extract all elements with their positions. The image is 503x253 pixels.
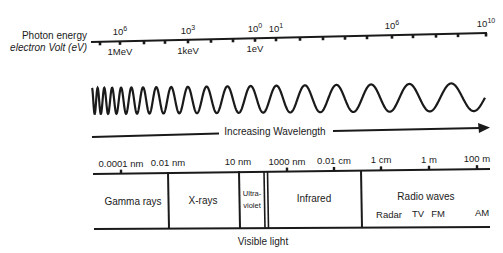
energy-tick <box>322 37 325 41</box>
wavelength-label: 1000 nm <box>269 156 306 167</box>
energy-axis-unit-label: electron Volt (eV) <box>10 42 87 53</box>
energy-tick <box>119 41 122 45</box>
energy-power-label: 103 <box>181 24 196 36</box>
wavelength-tick <box>333 167 335 171</box>
energy-tick <box>187 40 190 44</box>
wavelength-label: 0.0001 nm <box>99 158 144 169</box>
band-infrared: Infrared <box>297 193 331 204</box>
wavelength-labels: 0.0001 nm0.01 nm10 nm1000 nm0.01 cm1 cm1… <box>99 153 491 168</box>
band-gamma-rays: Gamma rays <box>104 196 161 207</box>
energy-tick <box>254 38 257 42</box>
wavelength-tick <box>120 170 122 174</box>
energy-unit-label: 1MeV <box>108 46 133 57</box>
energy-power-label: 1010 <box>477 17 495 29</box>
divider-ir-radio <box>361 170 362 228</box>
wavelength-label: 10 nm <box>225 156 251 167</box>
wavelength-label: 1 m <box>421 154 437 165</box>
energy-tick <box>485 33 488 37</box>
arrow-label: Increasing Wavelength <box>224 126 325 137</box>
wave-icon <box>92 83 485 113</box>
energy-tick <box>457 34 460 38</box>
energy-tick <box>299 37 302 41</box>
wavelength-label: 0.01 nm <box>151 157 185 168</box>
divider-gamma-xray <box>168 172 169 229</box>
energy-tick <box>232 39 235 43</box>
energy-power-label: 106 <box>385 19 400 31</box>
band-bottom-line <box>94 227 490 229</box>
wavelength-tick <box>286 168 288 172</box>
wavelength-label: 100 m <box>464 153 490 164</box>
energy-power-label: 106 <box>113 25 128 37</box>
subband-fm: FM <box>431 208 445 219</box>
band-top-line <box>93 169 490 174</box>
energy-tick <box>99 42 102 46</box>
energy-power-label: 101 <box>269 22 284 34</box>
visible-light-label: Visible light <box>238 236 289 247</box>
energy-axis: Photon energy electron Volt (eV) 1061031… <box>10 17 495 57</box>
energy-unit-label: 1keV <box>177 45 199 56</box>
divider-visible-right <box>268 171 269 229</box>
wavelength-label: 1 cm <box>371 154 392 165</box>
subband-tv: TV <box>412 208 425 219</box>
arrow-head-icon <box>478 123 490 133</box>
energy-tick <box>435 34 438 38</box>
energy-tick <box>344 36 347 40</box>
divider-xray-uv <box>239 171 240 228</box>
em-spectrum-diagram: Photon energy electron Volt (eV) 1061031… <box>0 0 503 253</box>
energy-tick <box>210 39 213 43</box>
subband-am: AM <box>475 207 489 218</box>
arrow-shaft-right <box>333 128 480 131</box>
wavelength-tick <box>380 166 382 170</box>
band-radio-waves: Radio waves <box>397 191 454 202</box>
band-ultraviolet-line2: violet <box>243 201 261 210</box>
wavelength-tick <box>428 166 430 170</box>
energy-tick <box>164 40 167 44</box>
wavelength-tick <box>476 165 478 169</box>
arrow-shaft-left <box>92 134 219 138</box>
energy-unit-label: 1eV <box>247 43 265 54</box>
band-x-rays: X-rays <box>189 195 218 206</box>
energy-tick <box>412 35 415 39</box>
energy-power-label: 100 <box>248 22 263 34</box>
energy-axis-line <box>91 33 487 42</box>
band-ultraviolet-line1: Ultra- <box>243 189 262 198</box>
energy-axis-label: Photon energy <box>22 30 87 41</box>
subband-radar: Radar <box>376 209 402 220</box>
energy-tick <box>391 35 394 39</box>
energy-unit-labels: 1MeV1keV1eV <box>108 43 265 57</box>
energy-tick <box>366 36 369 40</box>
band-labels: Gamma rays X-rays Ultra- violet Infrared… <box>104 189 489 247</box>
wavelength-label: 0.01 cm <box>317 155 351 166</box>
increasing-wavelength-arrow: Increasing Wavelength <box>92 123 490 137</box>
energy-tick <box>275 38 278 42</box>
divider-visible-left <box>264 171 265 229</box>
energy-tick <box>143 41 146 45</box>
